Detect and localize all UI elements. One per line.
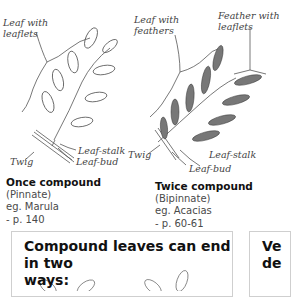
label-feather-with-leaflets: Feather with leaflets	[218, 10, 280, 32]
label-leaf-stalk-left: Leaf-stalk	[78, 145, 125, 156]
caption-title: Once compound	[6, 176, 101, 189]
label-leaf-bud-right: Leaf-bud	[189, 163, 231, 174]
caption-title: Twice compound	[155, 180, 253, 193]
label-leaf-with-feathers: Leaf with feathers	[134, 14, 179, 36]
label-leaf-stalk-right: Leaf-stalk	[209, 149, 256, 160]
label-twig-left: Twig	[10, 156, 33, 167]
page-reference: - p. 140	[6, 214, 101, 227]
side-info-box: Ve de	[249, 231, 291, 297]
compound-leaves-info-box: Compound leaves can end in two ways:	[11, 231, 233, 297]
side-box-heading: Ve de	[262, 238, 290, 272]
caption-once-compound: Once compound (Pinnate) eg. Marula - p. …	[6, 176, 101, 226]
label-leaf-bud-left: Leaf-bud	[76, 156, 118, 167]
info-box-heading: Compound leaves can end in two ways:	[24, 238, 232, 289]
label-leaf-with-leaflets: Leaf with leaflets	[3, 17, 48, 39]
page-reference: - p. 60-61	[155, 218, 253, 231]
caption-twice-compound: Twice compound (Bipinnate) eg. Acacias -…	[155, 180, 253, 230]
label-twig-right: Twig	[128, 149, 151, 160]
